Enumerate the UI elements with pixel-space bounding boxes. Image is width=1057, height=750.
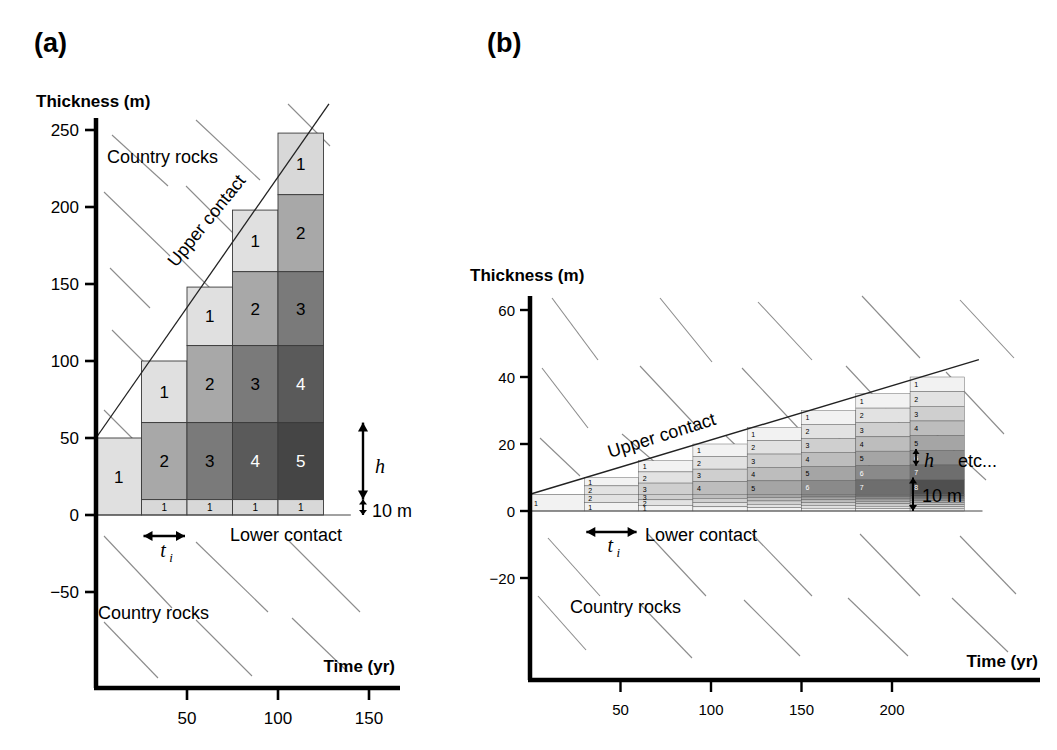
layer-block (802, 438, 856, 452)
hatch-line (110, 268, 150, 308)
layer-number: 2 (806, 428, 810, 435)
column-3 (639, 461, 693, 511)
layer-number: 1 (806, 414, 810, 421)
ti-subscript: i (169, 550, 173, 565)
layer-number: 6 (806, 484, 810, 491)
layer-number: 3 (860, 427, 864, 434)
hatch-line (758, 302, 812, 360)
layer-block (639, 461, 693, 472)
layer-number: 4 (806, 456, 810, 463)
layer-block (802, 500, 856, 503)
y-tick-label: 20 (498, 436, 515, 453)
layer-number: 5 (296, 452, 305, 471)
ti-head-right (176, 531, 185, 541)
layer-number: 8 (914, 484, 918, 491)
layer-number: 1 (114, 468, 123, 487)
layer-number: 1 (751, 431, 755, 438)
layer-number: 2 (588, 487, 592, 494)
layer-number: 5 (860, 455, 864, 462)
layer-block (856, 437, 910, 451)
layer-block (639, 500, 693, 506)
layer-number: 2 (860, 412, 864, 419)
layer-number: 5 (751, 485, 755, 492)
panel-b-blocks (530, 377, 964, 511)
tenm-head-up (359, 500, 367, 505)
layer-block (639, 494, 693, 500)
y-tick-label: 40 (498, 369, 515, 386)
hatch-line (540, 438, 580, 476)
ti-head-left (586, 527, 595, 537)
layer-block (693, 503, 747, 507)
y-tick-label: 60 (498, 302, 515, 319)
panel-b-x-axis-label: Time (yr) (967, 652, 1039, 671)
panel-a-h-arrow: h (358, 423, 385, 500)
layer-block (693, 507, 747, 511)
layer-block (910, 436, 964, 451)
layer-number: 4 (697, 485, 701, 492)
hatch-line (196, 542, 268, 612)
figure-canvas: 1121123112341123451112112311234112345125… (0, 0, 1057, 750)
x-tick-label: 150 (355, 709, 383, 728)
column-1 (530, 494, 584, 511)
layer-number: 1 (643, 463, 647, 470)
layer-block (693, 469, 747, 482)
layer-block (910, 507, 964, 509)
panel-a-label: (a) (34, 28, 67, 58)
y-tick-label: 150 (51, 275, 79, 294)
layer-number: 3 (751, 458, 755, 465)
layer-number: 1 (298, 502, 304, 513)
layer-number: 1 (534, 500, 538, 507)
ti-label: t (607, 534, 613, 556)
hatch-line (104, 622, 158, 678)
h-arrow-head-down (358, 491, 368, 500)
layer-number: 1 (697, 447, 701, 454)
layer-block (856, 499, 910, 501)
layer-block (856, 408, 910, 422)
layer-block (747, 504, 801, 507)
layer-block (856, 422, 910, 436)
column-4 (693, 444, 747, 511)
hatch-line (742, 368, 800, 430)
x-tick-label: 50 (178, 709, 197, 728)
panel-a-ti-arrow: ti (144, 531, 186, 565)
layer-number: 1 (860, 398, 864, 405)
y-tick-label: 250 (51, 121, 79, 140)
hatch-line (196, 620, 252, 676)
layer-block (856, 451, 910, 465)
hatch-line (744, 600, 800, 656)
layer-block (584, 494, 638, 502)
h-arrow-head-up (358, 423, 368, 432)
layer-number: 3 (251, 375, 260, 394)
layer-block (693, 457, 747, 470)
country-rocks-label-upper: Country rocks (107, 147, 218, 167)
panel-b-ti-arrow: ti (586, 527, 636, 560)
layer-block (530, 494, 584, 511)
column-2 (584, 478, 638, 512)
panel-b-country-rocks-label: Country rocks (570, 597, 681, 617)
layer-block (747, 454, 801, 467)
ti-head-right (628, 527, 637, 537)
hatch-line (548, 538, 600, 596)
layer-block (856, 466, 910, 480)
x-tick-label: 50 (612, 701, 629, 718)
hatch-line (952, 598, 1008, 652)
etc-label: etc... (958, 451, 997, 471)
layer-block (584, 478, 638, 486)
hatch-line (752, 534, 812, 596)
x-tick-label: 100 (698, 701, 723, 718)
layer-block (910, 377, 964, 392)
layer-number: 1 (161, 502, 167, 513)
lower-contact-label: Lower contact (230, 525, 342, 545)
hatch-line (862, 296, 920, 358)
hatch-line (848, 598, 908, 656)
layer-block (910, 421, 964, 436)
hatch-line (860, 534, 920, 596)
column-7 (856, 394, 910, 511)
tenm-head-down (359, 510, 367, 515)
layer-block (856, 504, 910, 506)
layer-number: 3 (697, 472, 701, 479)
layer-number: 1 (588, 504, 592, 511)
layer-block (747, 441, 801, 454)
layer-block (802, 466, 856, 480)
layer-number: 4 (296, 375, 305, 394)
